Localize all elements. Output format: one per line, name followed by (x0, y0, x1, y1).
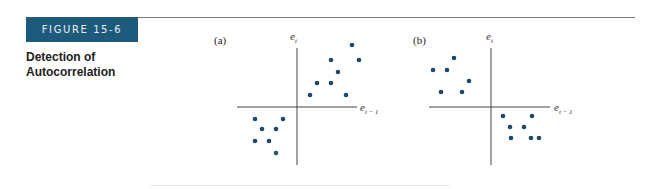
panel-a-data-points (253, 43, 362, 156)
panel-b-y-axis-label: et (486, 30, 494, 45)
panel-a-positive-autocorrelation: (a) et et − 1 (214, 30, 379, 165)
panel-b-x-axis-label: et − 1 (554, 101, 573, 116)
panel-b-negative-autocorrelation: (b) et et − 1 (413, 30, 573, 165)
panel-a-y-axis-label: et (290, 30, 298, 45)
panel-b-label: (b) (413, 34, 426, 47)
panel-a-x-axis-label: et − 1 (360, 101, 379, 116)
autocorrelation-plots: (a) et et − 1 (b) et et − 1 (0, 0, 652, 189)
bottom-rule-divider (150, 185, 450, 186)
panel-b-data-points (431, 56, 542, 141)
panel-a-label: (a) (214, 34, 227, 47)
